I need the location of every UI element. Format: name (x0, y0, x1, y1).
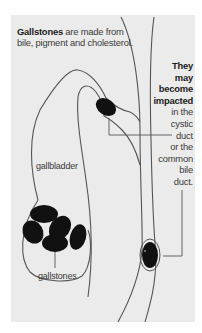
callout-line: duct. (143, 176, 193, 188)
callout-bold-line: become (143, 83, 193, 95)
gallstones-label: gallstones (38, 271, 77, 281)
impaction-callout: They may become impacted in the cystic d… (143, 60, 193, 188)
intro-rest: are made from (63, 26, 124, 37)
gallstone-5 (42, 234, 68, 252)
callout-line: bile (143, 164, 193, 176)
gallbladder-label: gallbladder (36, 161, 78, 171)
callout-bold-line: may (143, 72, 193, 84)
intro-text: Gallstones are made from bile, pigment a… (17, 26, 177, 48)
callout-line: cystic (143, 118, 193, 130)
callout-line-common (163, 190, 182, 256)
common-duct-left-wall (118, 17, 142, 322)
callout-line: common (143, 153, 193, 165)
cystic-duct-inner-wall (78, 86, 140, 297)
stone-highlight (144, 250, 146, 252)
impacted-stone-common (142, 242, 158, 268)
intro-bold: Gallstones (17, 26, 63, 37)
callout-bold-line: They (143, 60, 193, 72)
callout-line: duct (143, 130, 193, 142)
callout-line: or the (143, 141, 193, 153)
intro-line2: bile, pigment and cholesterol. (17, 37, 133, 48)
callout-bold-line: impacted (143, 95, 193, 107)
callout-line: in the (143, 106, 193, 118)
